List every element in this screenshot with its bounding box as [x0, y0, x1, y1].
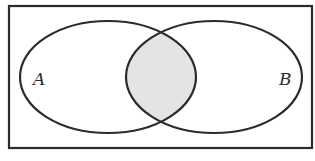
venn-diagram: A B [0, 0, 315, 161]
set-b-label: B [278, 69, 292, 89]
set-a-label: A [31, 69, 45, 89]
